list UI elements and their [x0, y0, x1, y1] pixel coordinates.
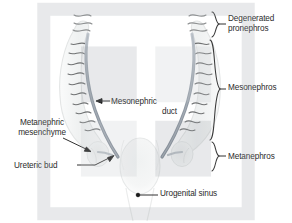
anatomical-diagram: Degenerated pronephros Mesonephros Metan…: [0, 0, 292, 223]
watermark-icon: [0, 0, 292, 223]
